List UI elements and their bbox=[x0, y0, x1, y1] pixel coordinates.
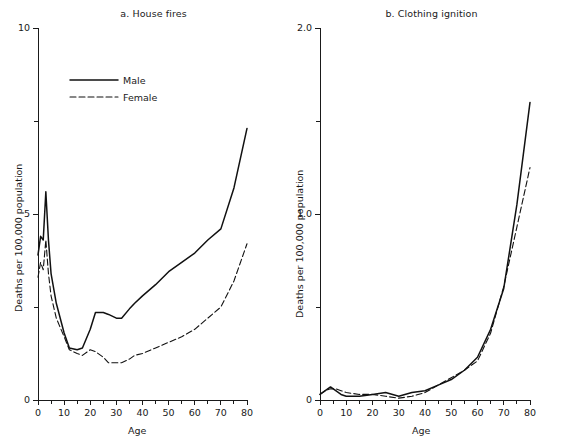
chart-panel-clothing-ignition: b. Clothing ignition Deaths per 100,000 … bbox=[280, 0, 561, 443]
y-tick-label: 10 bbox=[18, 22, 30, 33]
x-tick-label: 40 bbox=[136, 407, 148, 418]
series-line-male bbox=[320, 102, 530, 396]
series-line-female bbox=[38, 240, 247, 363]
x-tick-label: 60 bbox=[189, 407, 201, 418]
series-line-male bbox=[38, 128, 247, 349]
x-tick-label: 0 bbox=[35, 407, 41, 418]
x-tick-label: 0 bbox=[317, 407, 323, 418]
legend-label-female: Female bbox=[123, 92, 158, 103]
x-tick-label: 50 bbox=[163, 407, 175, 418]
x-tick-label: 80 bbox=[524, 407, 536, 418]
x-tick-label: 70 bbox=[215, 407, 227, 418]
series-line-female bbox=[320, 168, 530, 399]
x-tick-label: 70 bbox=[498, 407, 510, 418]
y-tick-label: 2.0 bbox=[297, 22, 312, 33]
y-tick-label: 0 bbox=[24, 394, 30, 405]
y-tick-label: 5 bbox=[24, 208, 30, 219]
legend-label-male: Male bbox=[123, 75, 146, 86]
x-tick-label: 10 bbox=[340, 407, 352, 418]
x-tick-label: 60 bbox=[471, 407, 483, 418]
panel-b-plot-area: 01.02.001020304050607080 bbox=[280, 0, 561, 443]
x-tick-label: 30 bbox=[110, 407, 122, 418]
figure-two-panel-line-charts: a. House fires Deaths per 100,000 popula… bbox=[0, 0, 561, 443]
x-tick-label: 20 bbox=[366, 407, 378, 418]
panel-a-plot-area: 051001020304050607080MaleFemale bbox=[0, 0, 281, 443]
y-tick-label: 1.0 bbox=[297, 208, 312, 219]
x-tick-label: 20 bbox=[84, 407, 96, 418]
x-tick-label: 10 bbox=[58, 407, 70, 418]
x-tick-label: 30 bbox=[393, 407, 405, 418]
x-tick-label: 50 bbox=[445, 407, 457, 418]
x-tick-label: 40 bbox=[419, 407, 431, 418]
x-tick-label: 80 bbox=[241, 407, 253, 418]
chart-panel-house-fires: a. House fires Deaths per 100,000 popula… bbox=[0, 0, 281, 443]
y-tick-label: 0 bbox=[306, 394, 312, 405]
